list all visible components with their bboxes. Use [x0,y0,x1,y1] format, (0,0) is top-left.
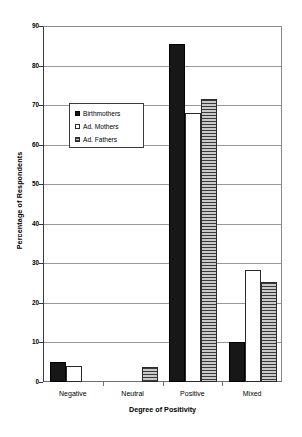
y-axis-tick-mark [39,382,43,383]
bars-layer [44,26,282,382]
bar-mixed-ad-mothers [245,270,261,382]
category-separator [103,382,104,386]
y-axis-tick-mark [39,224,43,225]
legend: Birthmothers Ad. Mothers Ad. Fathers [69,103,144,148]
y-axis-tick-label: 30 [17,259,39,266]
legend-swatch-birthmothers-icon [75,111,80,116]
bar-negative-ad-mothers [66,366,82,382]
y-axis-tick-label: 40 [17,220,39,227]
bar-negative-birthmothers [50,362,66,382]
y-axis-tick-label: 60 [17,141,39,148]
legend-swatch-ad-fathers-icon [75,137,80,142]
legend-label-ad-fathers: Ad. Fathers [83,136,117,143]
bar-positive-ad-mothers [185,113,201,382]
bar-mixed-birthmothers [229,342,245,382]
y-axis-tick-mark [39,263,43,264]
y-axis-tick-label: 20 [17,299,39,306]
category-separator [163,382,164,386]
y-axis-tick-label: 90 [17,22,39,29]
legend-label-birthmothers: Birthmothers [83,110,120,117]
y-axis-tick-mark [39,303,43,304]
legend-item-birthmothers: Birthmothers [75,107,143,120]
x-axis-title: Degree of Positivity [43,405,282,414]
y-axis-tick-label: 0 [17,378,39,385]
x-axis-label-mixed: Mixed [217,390,287,397]
y-axis-tick-label: 10 [17,338,39,345]
y-axis-tick-mark [39,145,43,146]
y-axis-tick-mark [39,105,43,106]
category-separator [222,382,223,386]
bar-positive-ad-fathers [201,99,217,382]
legend-item-ad-mothers: Ad. Mothers [75,120,143,133]
y-axis-tick-mark [39,184,43,185]
y-axis-tick-label: 70 [17,101,39,108]
y-axis-tick-label: 50 [17,180,39,187]
y-axis-tick-mark [39,342,43,343]
y-axis-tick-label: 80 [17,62,39,69]
bar-chart: Percentage of Respondents 01020304050607… [0,0,302,437]
bar-neutral-ad-fathers [142,367,158,382]
y-axis-tick-mark [39,66,43,67]
legend-swatch-ad-mothers-icon [75,124,80,129]
legend-item-ad-fathers: Ad. Fathers [75,133,143,146]
legend-label-ad-mothers: Ad. Mothers [83,123,119,130]
bar-mixed-ad-fathers [261,282,277,382]
y-axis-tick-mark [39,26,43,27]
bar-positive-birthmothers [169,44,185,382]
